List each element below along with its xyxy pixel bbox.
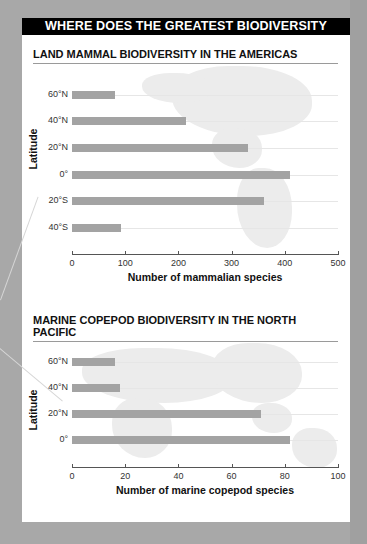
y-tick-label: 0° (28, 434, 68, 444)
map-landmass (82, 348, 232, 403)
chart1-title: LAND MAMMAL BIODIVERSITY IN THE AMERICAS (33, 48, 338, 64)
y-tick-label: 40°S (28, 222, 68, 232)
bar-40°N (72, 117, 186, 125)
map-landmass (212, 343, 302, 403)
x-tick (338, 464, 339, 468)
x-tick (285, 251, 286, 255)
x-tick (232, 464, 233, 468)
page-edge (350, 0, 367, 544)
x-tick (178, 251, 179, 255)
x-tick-label: 100 (323, 471, 353, 481)
chart2-title: MARINE COPEPOD BIODIVERSITY IN THE NORTH… (33, 314, 338, 342)
map-landmass (252, 403, 292, 433)
bar-40°S (72, 224, 121, 232)
x-tick (285, 464, 286, 468)
x-axis (72, 254, 338, 255)
map-landmass (237, 168, 292, 248)
bar-60°N (72, 91, 115, 99)
bar-0° (72, 171, 290, 179)
bar-20°S (72, 197, 264, 205)
x-tick (338, 251, 339, 255)
x-tick-label: 40 (163, 471, 193, 481)
x-tick-label: 300 (217, 258, 247, 268)
x-tick-label: 200 (163, 258, 193, 268)
bar-20°N (72, 410, 261, 418)
bar-20°N (72, 144, 248, 152)
y-tick-label: 60°N (28, 356, 68, 366)
x-axis-title: Number of marine copepod species (72, 484, 338, 496)
x-tick-label: 500 (323, 258, 353, 268)
x-tick (178, 464, 179, 468)
x-axis-title: Number of mammalian species (72, 271, 338, 283)
bar-60°N (72, 358, 115, 366)
figure-card: WHERE DOES THE GREATEST BIODIVERSITY OCC… (22, 18, 350, 522)
x-tick (72, 464, 73, 468)
y-axis-title: Latitude (27, 124, 39, 174)
map-landmass (142, 73, 212, 103)
x-tick (125, 464, 126, 468)
y-tick-label: 60°N (28, 89, 68, 99)
x-tick-label: 0 (57, 471, 87, 481)
bar-0° (72, 436, 290, 444)
x-tick-label: 0 (57, 258, 87, 268)
x-tick-label: 80 (270, 471, 300, 481)
x-tick (232, 251, 233, 255)
map-landmass (292, 428, 337, 468)
x-tick-label: 400 (270, 258, 300, 268)
figure-header: WHERE DOES THE GREATEST BIODIVERSITY OCC… (22, 18, 350, 35)
x-tick (72, 251, 73, 255)
bar-40°N (72, 384, 120, 392)
x-tick-label: 20 (110, 471, 140, 481)
x-axis (72, 467, 338, 468)
map-landmass (112, 398, 172, 458)
x-tick-label: 60 (217, 471, 247, 481)
x-tick (125, 251, 126, 255)
x-tick-label: 100 (110, 258, 140, 268)
y-axis-title: Latitude (27, 385, 39, 435)
